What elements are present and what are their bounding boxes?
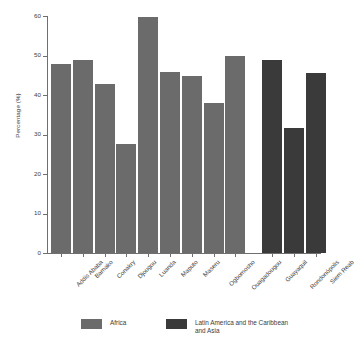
x-axis-tick-label: Maseru <box>202 259 221 278</box>
x-axis-tick-mark <box>214 253 215 257</box>
x-axis-tick-label: Maputo <box>180 259 199 278</box>
x-axis-line <box>47 253 321 254</box>
x-axis-tick-mark <box>126 253 127 257</box>
bar <box>138 17 158 253</box>
bar <box>51 64 71 253</box>
x-axis-tick-mark <box>105 253 106 257</box>
bar <box>225 56 245 253</box>
x-axis-tick-label: Guayaquil <box>284 259 308 283</box>
y-axis-tick-label: 60 <box>34 13 41 19</box>
x-axis-tick-label: Djougou <box>137 259 158 280</box>
legend-swatch-latin-america <box>166 319 187 329</box>
legend-item-latin-america: Latin America and the Caribbean and Asia <box>166 319 288 335</box>
x-axis-tick-mark <box>170 253 171 257</box>
chart-legend: Africa Latin America and the Caribbean a… <box>0 316 327 346</box>
bar <box>262 60 282 253</box>
x-axis-tick-label: Luanda <box>158 259 177 278</box>
y-axis-tick-label: 30 <box>34 131 41 137</box>
bar <box>284 128 304 253</box>
y-axis-tick-label: 40 <box>34 92 41 98</box>
x-axis-tick-mark <box>83 253 84 257</box>
x-axis-tick-mark <box>192 253 193 257</box>
bar <box>204 103 224 253</box>
x-axis-tick-mark <box>272 253 273 257</box>
x-axis-tick-label: Conakry <box>115 259 136 280</box>
bar <box>73 60 93 253</box>
bar <box>306 73 326 254</box>
x-axis-tick-mark <box>294 253 295 257</box>
legend-item-africa: Africa <box>81 319 126 329</box>
x-axis-tick-mark <box>61 253 62 257</box>
legend-label-africa: Africa <box>110 319 126 327</box>
x-axis-tick-label: Ouagadougou <box>251 259 283 291</box>
y-axis-tick-label: 20 <box>34 171 41 177</box>
bar <box>116 144 136 253</box>
x-axis-tick-mark <box>148 253 149 257</box>
y-axis-tick-label: 50 <box>34 52 41 58</box>
x-axis-tick-mark <box>235 253 236 257</box>
y-axis-title: Percentage (%) <box>14 66 21 166</box>
legend-label-latin-america: Latin America and the Caribbean and Asia <box>195 319 288 335</box>
bar <box>95 84 115 253</box>
x-axis-tick-mark <box>316 253 317 257</box>
plot-area <box>48 16 320 253</box>
bar <box>160 72 180 253</box>
y-axis-tick-label: 0 <box>38 250 41 256</box>
y-axis-tick-label: 10 <box>34 210 41 216</box>
legend-swatch-africa <box>81 319 102 329</box>
bar <box>182 76 202 253</box>
